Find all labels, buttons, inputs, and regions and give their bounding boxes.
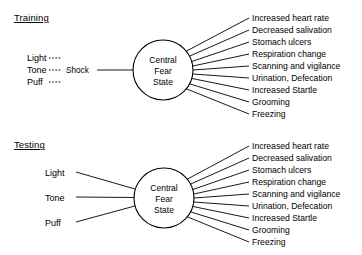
testing-output-label-4: Scanning and vigilance [252,189,341,199]
training-node-label-line3: State [153,77,173,87]
testing-output-label-6: Increased Startle [252,213,317,223]
training-output-label-5: Urination, Defecation [252,73,332,83]
testing-heading: Testing [14,139,45,150]
training-output-label-0: Increased heart rate [252,13,329,23]
testing-output-edge-7 [190,212,249,230]
testing-input-label-light: Light [45,168,65,178]
testing-input-label-tone: Tone [45,193,65,203]
training-output-label-3: Respiration change [252,49,326,59]
training-output-edge-7 [189,84,249,102]
training-output-edge-5 [193,74,249,78]
testing-puff-edge [76,205,139,222]
training-output-label-1: Decreased salivation [252,25,332,35]
testing-node-label-line1: Central [150,183,178,193]
training-input-label-light: Light [27,53,47,63]
testing-output-edge-6 [193,206,249,218]
testing-output-edge-5 [194,202,249,206]
testing-light-edge [76,172,139,190]
training-output-edge-3 [193,54,249,66]
training-output-edge-4 [193,66,249,70]
training-node-label-line2: Fear [154,66,172,76]
training-shock-label: Shock [66,66,90,75]
testing-section: Testing Light Tone Puff Central Fear Sta… [14,139,341,247]
testing-output-label-5: Urination, Defecation [252,201,332,211]
training-node-label-line1: Central [149,55,177,65]
training-output-label-7: Grooming [252,97,290,107]
testing-output-label-0: Increased heart rate [252,141,329,151]
testing-node-label-line2: Fear [155,194,173,204]
training-output-label-8: Freezing [252,109,286,119]
training-output-label-6: Increased Startle [252,85,317,95]
testing-output-edge-3 [194,182,249,194]
training-section: Training Light Tone Puff Shock Central F… [14,12,341,119]
training-output-edge-6 [192,78,249,90]
testing-input-label-puff: Puff [45,218,61,228]
fear-conditioning-diagram: Training Light Tone Puff Shock Central F… [0,0,362,255]
training-input-label-tone: Tone [27,65,47,75]
training-output-edge-0 [186,18,249,51]
testing-node-label-line3: State [154,205,174,215]
training-input-label-puff: Puff [27,77,43,87]
training-output-label-4: Scanning and vigilance [252,61,341,71]
testing-output-label-2: Stomach ulcers [252,165,311,175]
testing-tone-edge [76,197,134,198]
testing-output-label-1: Decreased salivation [252,153,332,163]
testing-output-label-3: Respiration change [252,177,326,187]
training-output-label-2: Stomach ulcers [252,37,311,47]
testing-output-label-7: Grooming [252,225,290,235]
testing-output-label-8: Freezing [252,237,286,247]
training-heading: Training [14,12,49,23]
testing-output-edge-4 [194,194,249,198]
